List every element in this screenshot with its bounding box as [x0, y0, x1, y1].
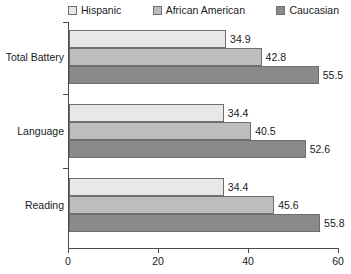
bar-value-label: 55.5 [323, 69, 343, 81]
legend-item-caucasian: Caucasian [276, 5, 339, 16]
chart-legend: Hispanic African American Caucasian [68, 2, 343, 18]
x-axis-tick [338, 248, 339, 253]
bar [69, 66, 319, 84]
bar-value-label: 34.4 [228, 181, 248, 193]
x-axis-line [68, 248, 338, 249]
bar [69, 178, 224, 196]
x-axis-tick-label: 40 [242, 255, 254, 267]
bar [69, 30, 226, 48]
bar-value-label: 34.9 [230, 33, 250, 45]
y-axis-tick [63, 22, 68, 23]
bar [69, 140, 306, 158]
bar-value-label: 34.4 [228, 107, 248, 119]
legend-item-hispanic: Hispanic [68, 5, 121, 16]
bar [69, 104, 224, 122]
legend-swatch-icon-caucasian [276, 6, 285, 15]
bar [69, 214, 320, 232]
bar-value-label: 42.8 [266, 51, 286, 63]
bar [69, 48, 262, 66]
legend-swatch-icon-african-american [153, 6, 162, 15]
category-label: Total Battery [6, 51, 64, 63]
category-label: Reading [25, 199, 64, 211]
x-axis-tick [68, 248, 69, 253]
x-axis-tick-label: 20 [152, 255, 164, 267]
legend-label-hispanic: Hispanic [81, 5, 121, 16]
bar-value-label: 52.6 [310, 143, 330, 155]
bar [69, 122, 251, 140]
y-axis-tick [63, 168, 68, 169]
legend-item-african-american: African American [153, 5, 245, 16]
x-axis-tick [158, 248, 159, 253]
legend-label-african-american: African American [166, 5, 245, 16]
y-axis-tick [63, 94, 68, 95]
x-axis-tick-label: 0 [65, 255, 71, 267]
category-axis-labels: Total BatteryLanguageReading [0, 22, 64, 248]
plot-area: 34.942.855.534.440.552.634.445.655.80204… [68, 22, 338, 248]
bar-value-label: 45.6 [278, 199, 298, 211]
bar [69, 196, 274, 214]
legend-swatch-icon-hispanic [68, 6, 77, 15]
bar-chart: Hispanic African American Caucasian Tota… [0, 0, 351, 274]
legend-label-caucasian: Caucasian [289, 5, 339, 16]
bar-value-label: 40.5 [255, 125, 275, 137]
x-axis-tick-label: 60 [332, 255, 344, 267]
category-label: Language [17, 125, 64, 137]
bar-value-label: 55.8 [324, 217, 344, 229]
x-axis-tick [248, 248, 249, 253]
